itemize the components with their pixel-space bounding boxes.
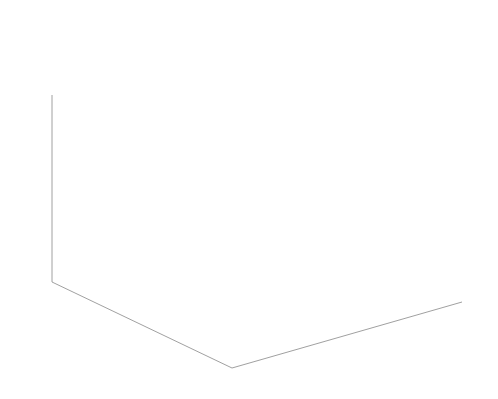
surface-plot — [0, 0, 498, 399]
y-axis-line — [52, 282, 232, 368]
axes-lines — [52, 95, 462, 368]
x-axis-line — [232, 302, 462, 368]
